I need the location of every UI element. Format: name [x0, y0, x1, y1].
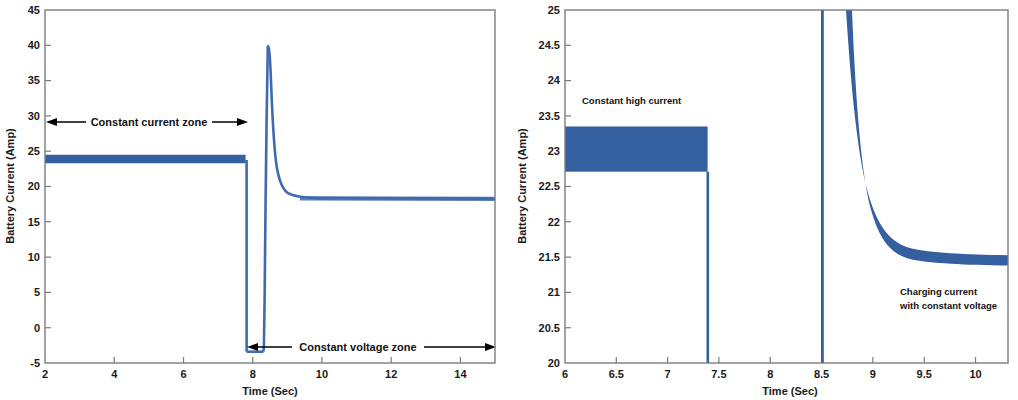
- left-chart-svg: Battery Current (Amp) 45 40 35 30 25 20 …: [0, 0, 510, 400]
- right-x-axis-title: Time (Sec): [762, 385, 818, 397]
- x-tick-label: 9: [870, 368, 876, 380]
- x-tick-label: 6: [180, 368, 186, 380]
- y-tick-label: 0: [34, 322, 40, 334]
- right-x-tick-marks: [616, 357, 975, 363]
- x-tick-label: 6: [562, 368, 568, 380]
- y-tick-label: 25: [548, 4, 560, 16]
- left-y-tick-labels: 45 40 35 30 25 20 15 10 5 0 -5: [28, 4, 40, 369]
- chart-panel-right: Battery Current (Amp) 25 24.5 24 23.5 23…: [510, 0, 1018, 400]
- current-drop-edge: [707, 172, 710, 364]
- x-tick-label: 7.5: [711, 368, 726, 380]
- y-tick-label: -5: [30, 357, 40, 369]
- battery-current-figure: Battery Current (Amp) 45 40 35 30 25 20 …: [0, 0, 1018, 400]
- right-x-tick-labels: 6 6.5 7 7.5 8 8.5 9 9.5 10: [562, 368, 982, 380]
- y-tick-label: 24.5: [539, 39, 560, 51]
- right-chart-svg: Battery Current (Amp) 25 24.5 24 23.5 23…: [510, 0, 1018, 400]
- chart-panel-left: Battery Current (Amp) 45 40 35 30 25 20 …: [0, 0, 510, 400]
- left-series-battery-current: [45, 46, 495, 352]
- y-tick-label: 45: [28, 4, 40, 16]
- y-tick-label: 15: [28, 216, 40, 228]
- right-y-tick-marks: [565, 45, 571, 327]
- y-tick-label: 25: [28, 145, 40, 157]
- annotation-label: Constant current zone: [91, 116, 208, 128]
- left-x-tick-marks: [114, 357, 460, 363]
- y-tick-label: 24: [548, 74, 561, 86]
- y-tick-label: 20.5: [539, 322, 560, 334]
- x-tick-label: 8: [250, 368, 256, 380]
- right-y-axis-title: Battery Current (Amp): [516, 128, 528, 244]
- x-tick-label: 12: [385, 368, 397, 380]
- left-y-tick-marks: [45, 45, 51, 327]
- left-x-tick-labels: 2 4 6 8 10 12 14: [42, 368, 467, 380]
- arrow-right-icon: [237, 118, 248, 126]
- x-tick-label: 2: [42, 368, 48, 380]
- x-tick-label: 10: [969, 368, 981, 380]
- annotation-constant-voltage-zone: Constant voltage zone: [247, 337, 496, 357]
- y-tick-label: 23: [548, 145, 560, 157]
- left-y-axis-title: Battery Current (Amp): [4, 128, 16, 244]
- x-tick-label: 8.5: [814, 368, 829, 380]
- y-tick-label: 20: [28, 180, 40, 192]
- annotation-line-2: with constant voltage: [899, 300, 997, 311]
- y-tick-label: 5: [34, 286, 40, 298]
- y-tick-label: 40: [28, 39, 40, 51]
- y-tick-label: 35: [28, 74, 40, 86]
- arrow-left-icon: [46, 118, 57, 126]
- y-tick-label: 30: [28, 110, 40, 122]
- x-tick-label: 7: [665, 368, 671, 380]
- annotation-label: Constant voltage zone: [299, 341, 416, 353]
- left-x-axis-title: Time (Sec): [242, 385, 298, 397]
- y-tick-label: 10: [28, 251, 40, 263]
- x-tick-label: 8: [767, 368, 773, 380]
- x-tick-label: 14: [454, 368, 467, 380]
- y-tick-label: 20: [548, 357, 560, 369]
- x-tick-label: 6.5: [609, 368, 624, 380]
- y-tick-label: 22: [548, 216, 560, 228]
- arrow-left-icon: [247, 343, 258, 351]
- y-tick-label: 21.5: [539, 251, 560, 263]
- annotation-charging-current: Charging current with constant voltage: [899, 286, 997, 311]
- y-tick-label: 22.5: [539, 180, 560, 192]
- y-tick-label: 23.5: [539, 110, 560, 122]
- annotation-line-1: Charging current: [900, 286, 978, 297]
- x-tick-label: 4: [111, 368, 118, 380]
- current-rise-edge: [821, 10, 824, 363]
- annotation-constant-current-zone: Constant current zone: [46, 112, 248, 132]
- y-tick-label: 21: [548, 286, 560, 298]
- x-tick-label: 9.5: [917, 368, 932, 380]
- right-y-tick-labels: 25 24.5 24 23.5 23 22.5 22 21.5 21 20.5 …: [539, 4, 561, 369]
- charging-current-band: [846, 10, 1008, 266]
- constant-high-current-band: [565, 127, 708, 172]
- annotation-constant-high-current: Constant high current: [582, 95, 682, 106]
- x-tick-label: 10: [316, 368, 328, 380]
